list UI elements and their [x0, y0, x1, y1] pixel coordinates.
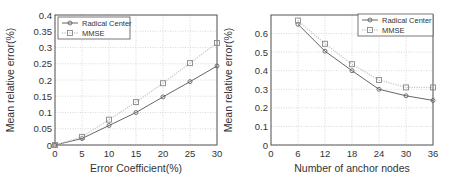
charts-canvas: 05101520253000.050.10.150.20.250.30.350.… [0, 0, 453, 186]
x-tick-label: 30 [212, 148, 223, 159]
y-tick-label: 0.1 [255, 121, 268, 132]
x-tick-label: 10 [104, 148, 115, 159]
y-tick-labels: 00.050.10.150.20.250.30.350.4 [34, 10, 53, 151]
y-axis-label: Mean relative error(%) [4, 28, 16, 132]
legend-label: MMSE [382, 26, 405, 35]
y-tick-label: 0.2 [255, 102, 268, 113]
y-tick-label: 0.25 [34, 58, 53, 69]
x-tick-label: 24 [374, 148, 385, 159]
chart-2: 06121824303600.10.20.30.40.50.6Number of… [222, 14, 438, 174]
y-tick-label: 0.15 [34, 91, 53, 102]
y-tick-label: 0.1 [39, 107, 52, 118]
y-tick-label: 0.4 [39, 10, 52, 21]
x-tick-labels: 061218243036 [268, 148, 438, 159]
y-tick-label: 0.5 [255, 47, 268, 58]
y-tick-label: 0.35 [34, 26, 53, 37]
y-tick-label: 0.3 [39, 42, 52, 53]
x-tick-label: 25 [185, 148, 196, 159]
y-tick-label: 0.6 [255, 28, 268, 39]
y-tick-label: 0 [47, 140, 52, 151]
chart-1: 05101520253000.050.10.150.20.250.30.350.… [4, 10, 222, 175]
y-tick-labels: 00.10.20.30.40.50.6 [255, 28, 268, 150]
legend-label: Radical Center [382, 16, 432, 25]
y-tick-label: 0 [263, 140, 268, 151]
x-tick-label: 0 [268, 148, 273, 159]
y-tick-label: 0.05 [34, 123, 53, 134]
legend: Radical CenterMMSE [58, 17, 132, 39]
x-tick-label: 12 [320, 148, 331, 159]
y-tick-label: 0.2 [39, 75, 52, 86]
x-tick-label: 36 [428, 148, 439, 159]
legend-label: Radical Center [82, 19, 132, 28]
y-tick-label: 0.3 [255, 84, 268, 95]
x-tick-label: 5 [79, 148, 84, 159]
figure: 05101520253000.050.10.150.20.250.30.350.… [0, 0, 453, 186]
y-axis-label: Mean relative error(%) [222, 28, 234, 132]
legend: Radical CenterMMSE [358, 14, 433, 36]
y-tick-label: 0.4 [255, 65, 268, 76]
x-tick-label: 15 [131, 148, 142, 159]
x-axis-label: Error Coefficient(%) [90, 162, 182, 174]
x-axis-label: Number of anchor nodes [294, 162, 410, 174]
x-tick-labels: 051015202530 [52, 148, 222, 159]
x-tick-label: 0 [52, 148, 57, 159]
x-tick-label: 30 [401, 148, 412, 159]
x-tick-label: 18 [347, 148, 358, 159]
x-tick-label: 20 [158, 148, 169, 159]
x-tick-label: 6 [295, 148, 300, 159]
legend-label: MMSE [82, 29, 105, 38]
